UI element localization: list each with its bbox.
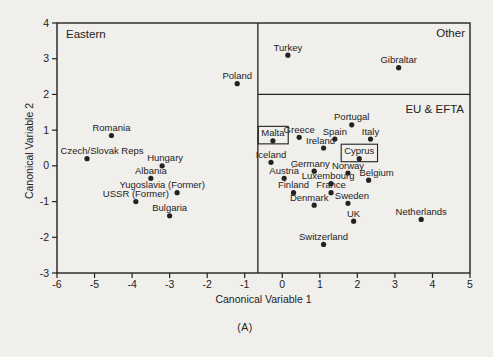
y-tick-label: -2 [40,231,49,243]
point-label: Sweden [335,190,369,201]
x-tick-label: 5 [467,278,473,290]
point-label: France [316,179,346,190]
data-point [270,138,275,143]
point-label: Ireland [306,135,335,146]
point-label: Iceland [256,149,287,160]
data-point [321,242,326,247]
data-point [321,145,326,150]
data-point [167,213,172,218]
y-tick-label: 1 [43,124,49,136]
y-tick-label: 3 [43,52,49,64]
point-label: Netherlands [396,206,447,217]
y-tick-label: -3 [40,267,49,279]
data-point [285,53,290,58]
x-tick-label: 3 [392,278,398,290]
point-label: UK [347,208,361,219]
data-point [312,203,317,208]
x-tick-label: -3 [165,278,174,290]
data-point [235,81,240,86]
point-label: Poland [222,70,252,81]
point-label: Albania [135,165,167,176]
x-axis-title: Canonical Variable 1 [215,293,311,305]
point-label: Romania [92,122,131,133]
point-label: Switzerland [299,231,348,242]
point-label: Finland [278,179,309,190]
x-tick-label: -5 [90,278,99,290]
data-point [419,217,424,222]
data-point [175,190,180,195]
data-point [345,201,350,206]
scatter-plot: -6-5-4-3-2-1012345-3-2-101234EasternOthe… [0,0,493,340]
data-point [297,135,302,140]
y-tick-label: 0 [43,159,49,171]
x-tick-label: 1 [317,278,323,290]
y-tick-label: 4 [43,17,49,29]
data-point [349,122,354,127]
point-label: Portugal [334,111,369,122]
x-tick-label: -4 [127,278,136,290]
figure-canvas: -6-5-4-3-2-1012345-3-2-101234EasternOthe… [0,0,493,357]
point-label: Cyprus [344,145,374,156]
point-label: Malta [261,127,285,138]
y-axis-title: Canonical Variable 2 [23,103,35,199]
point-label: Czech/Slovak Reps [61,145,144,156]
x-tick-label: 2 [354,278,360,290]
point-label: Austria [269,165,299,176]
x-tick-label: -1 [240,278,249,290]
point-label: Denmark [290,192,329,203]
x-tick-label: 4 [430,278,436,290]
data-point [84,156,89,161]
y-tick-label: -1 [40,195,49,207]
point-label: Gibraltar [380,54,416,65]
figure-caption: (A) [0,321,490,333]
region-label-eu-efta: EU & EFTA [405,103,464,115]
data-point [351,219,356,224]
x-tick-label: -6 [52,278,61,290]
data-point [109,133,114,138]
x-tick-label: -2 [203,278,212,290]
data-point [396,65,401,70]
y-tick-label: 2 [43,88,49,100]
data-point [366,178,371,183]
point-label: Hungary [147,152,183,163]
point-label: USSR (Former) [103,188,169,199]
point-label: Belgium [359,167,393,178]
x-tick-label: 0 [279,278,285,290]
point-label: Turkey [274,42,303,53]
point-label: Bulgaria [152,202,188,213]
region-label-other: Other [436,27,465,39]
data-point [368,136,373,141]
data-point [133,199,138,204]
point-label: Italy [362,126,380,137]
data-point [328,190,333,195]
region-label-eastern: Eastern [66,28,106,40]
